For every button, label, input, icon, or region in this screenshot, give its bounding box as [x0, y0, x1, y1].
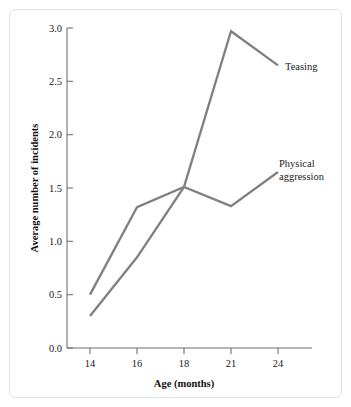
x-axis-title: Age (months): [154, 378, 215, 390]
y-tick-label-6: 3.0: [49, 23, 62, 34]
series-label-physical-aggression-line1: Physical: [279, 158, 315, 169]
x-tick-label-4: 24: [273, 358, 284, 369]
x-axis-tick-labels: 14 16 18 21 24: [85, 358, 284, 369]
y-tick-label-3: 1.5: [49, 183, 62, 194]
series-line-physical-aggression: [90, 172, 278, 295]
x-tick-label-1: 16: [132, 358, 143, 369]
y-tick-label-5: 2.5: [49, 76, 62, 87]
series-label-teasing: Teasing: [285, 61, 318, 72]
series-line-teasing: [90, 31, 278, 316]
x-tick-label-3: 21: [226, 358, 237, 369]
chart-figure: 0.0 0.5 1.0 1.5 2.0 2.5 3.0 14 16 18 21 …: [0, 0, 351, 407]
y-axis-ticks: [67, 28, 73, 348]
series-label-physical-aggression-line2: aggression: [279, 171, 325, 182]
x-tick-label-2: 18: [179, 358, 190, 369]
y-tick-label-4: 2.0: [49, 129, 62, 140]
y-tick-label-0: 0.0: [49, 343, 62, 354]
y-tick-label-2: 1.0: [49, 236, 62, 247]
y-axis-title: Average number of incidents: [29, 124, 40, 253]
x-axis-ticks: [90, 348, 278, 354]
y-axis-tick-labels: 0.0 0.5 1.0 1.5 2.0 2.5 3.0: [49, 23, 62, 354]
y-tick-label-1: 0.5: [49, 289, 62, 300]
x-tick-label-0: 14: [85, 358, 96, 369]
line-chart: 0.0 0.5 1.0 1.5 2.0 2.5 3.0 14 16 18 21 …: [0, 0, 351, 407]
